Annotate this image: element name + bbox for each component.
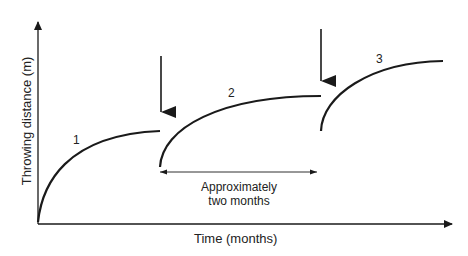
curve-2 bbox=[160, 96, 321, 167]
y-axis-label: Throwing distance (m) bbox=[19, 57, 34, 186]
curve-3-label: 3 bbox=[376, 52, 383, 66]
x-axis-label: Time (months) bbox=[194, 231, 277, 246]
curve-2-label: 2 bbox=[228, 86, 235, 100]
curve-3 bbox=[321, 61, 443, 131]
curve-1 bbox=[38, 131, 160, 222]
diagram-svg: 1 2 3 Approximately two months Time (mon… bbox=[0, 0, 468, 256]
curve-1-label: 1 bbox=[73, 133, 80, 147]
span-label-line1: Approximately bbox=[201, 180, 277, 194]
diagram-canvas: 1 2 3 Approximately two months Time (mon… bbox=[0, 0, 468, 256]
span-label-line2: two months bbox=[208, 194, 269, 208]
